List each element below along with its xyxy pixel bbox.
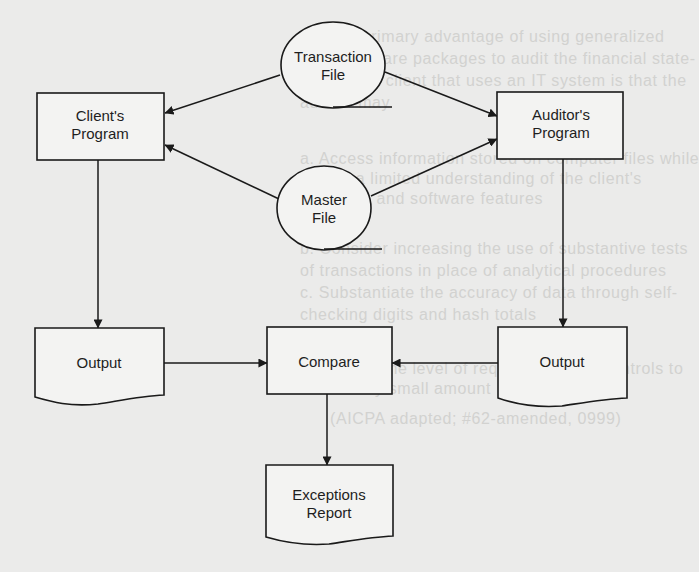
node-label: File [321,66,345,83]
node-label: Program [532,124,590,141]
node-label: File [312,209,336,226]
node-master-file: Master File [277,166,382,250]
edge-transaction-to-auditor [385,72,497,116]
node-label: Compare [298,353,360,370]
storage-circle-shape [277,166,371,250]
node-label: Output [76,354,122,371]
node-output-auditor: Output [498,327,627,407]
node-label: Output [539,353,585,370]
storage-circle-shape [281,22,385,108]
node-clients-program: Client's Program [37,93,164,160]
node-label: Auditor's [532,106,590,123]
node-label: Client's [76,107,125,124]
node-label: Report [306,504,352,521]
edge-master-to-auditor [371,139,497,196]
edge-master-to-client [165,145,279,199]
node-label: Program [71,125,129,142]
node-output-client: Output [35,328,164,405]
node-exceptions-report: Exceptions Report [266,465,393,545]
edge-transaction-to-client [165,75,280,113]
node-compare: Compare [267,327,392,394]
node-auditors-program: Auditor's Program [497,92,623,159]
node-label: Exceptions [292,486,365,503]
edges [98,72,563,465]
node-label: Master [301,191,347,208]
node-transaction-file: Transaction File [281,22,392,108]
node-label: Transaction [294,48,372,65]
